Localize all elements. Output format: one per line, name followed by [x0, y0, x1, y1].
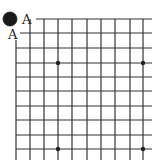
star-point — [141, 61, 145, 65]
board-grid — [16, 19, 152, 160]
star-point — [56, 147, 60, 151]
go-board-diagram: A A — [0, 0, 167, 168]
star-point — [56, 61, 60, 65]
label-a-left: A — [7, 27, 18, 42]
black-stone — [3, 12, 17, 26]
label-a-top: A — [21, 12, 32, 27]
stones — [3, 12, 17, 26]
star-point — [141, 147, 145, 151]
